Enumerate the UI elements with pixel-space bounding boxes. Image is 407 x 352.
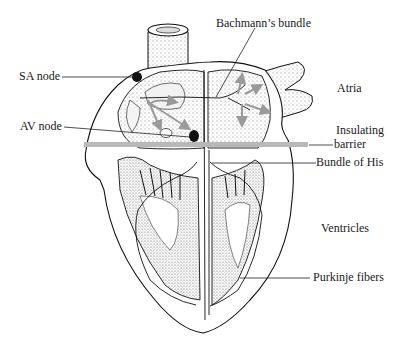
label-sa-node: SA node — [19, 70, 60, 83]
insulating-barrier — [84, 142, 308, 147]
label-bundle-of-his: Bundle of His — [316, 156, 383, 169]
label-barrier: barrier — [334, 138, 366, 151]
heart-diagram: Bachmann’s bundle SA node AV node Atria … — [0, 0, 407, 352]
label-purkinje-fibers: Purkinje fibers — [313, 271, 384, 284]
label-av-node: AV node — [20, 120, 62, 133]
label-atria: Atria — [337, 82, 362, 95]
label-bachmanns-bundle: Bachmann’s bundle — [216, 17, 311, 30]
label-insulating: Insulating — [336, 124, 384, 137]
av-node — [189, 130, 199, 142]
heart-illustration — [0, 0, 407, 352]
label-ventricles: Ventricles — [321, 222, 369, 235]
